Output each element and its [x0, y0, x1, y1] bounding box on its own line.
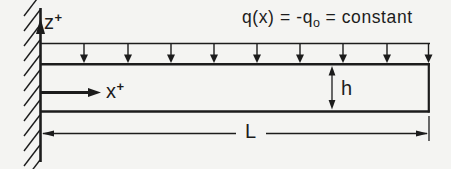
- beam-outline: [40, 64, 430, 113]
- load-arrow-icon: [210, 44, 218, 63]
- load-equation-label: q(x) = -qo = constant: [242, 9, 413, 30]
- load-arrow-icon: [339, 44, 347, 63]
- load-arrow-icon: [425, 44, 433, 63]
- height-dimension-label: h: [341, 78, 353, 98]
- load-arrow-icon: [124, 44, 132, 63]
- load-equation-subscript: o: [313, 16, 320, 30]
- length-dimension-label: L: [245, 121, 257, 141]
- load-arrow-icon: [80, 44, 88, 63]
- x-axis-label: x+: [106, 80, 124, 101]
- length-dimension: [42, 116, 429, 141]
- load-arrow-icon: [296, 44, 304, 63]
- load-arrows: [80, 44, 433, 63]
- load-arrow-icon: [167, 44, 175, 63]
- x-axis-plus-superscript: +: [117, 79, 125, 94]
- height-dimension: [329, 66, 336, 110]
- load-arrow-icon: [383, 44, 391, 63]
- wall-hatching: [24, 0, 40, 169]
- cantilever-beam-diagram: z+ x+ q(x) = -qo = constant h L: [0, 0, 451, 169]
- z-axis-plus-superscript: +: [55, 10, 63, 25]
- z-axis-label: z+: [44, 11, 62, 32]
- x-axis-arrow-icon: [41, 88, 101, 97]
- load-arrow-icon: [253, 44, 261, 63]
